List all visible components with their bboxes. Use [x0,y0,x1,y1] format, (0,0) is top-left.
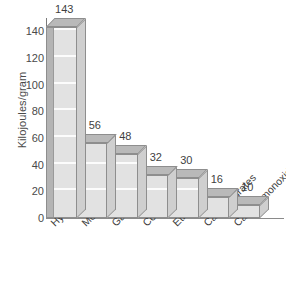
bar-left-face [47,27,54,217]
y-tick-20: 20 [32,185,44,197]
bar-side-face [138,145,147,218]
y-tick-120: 120 [26,52,44,64]
x-axis-category-labels: HydrogenMethaneGasolineCoalEthanolCarboh… [46,220,286,298]
y-tick-0: 0 [38,212,44,224]
bar-series: 143564832301610 [46,12,284,218]
y-tick-100: 100 [26,79,44,91]
y-tick-140: 140 [26,25,44,37]
plot-area: 143564832301610 [46,12,284,219]
bar-side-face [199,169,208,218]
bar-value-label: 56 [89,119,101,131]
bar-value-label: 32 [150,151,162,163]
bar-value-label: 48 [119,130,131,142]
bar-hydrogen [46,27,77,218]
bar-value-label: 143 [55,3,73,15]
bar-chart: Kilojoules/gram 140120100806040200 14356… [0,0,286,298]
y-tick-80: 80 [32,105,44,117]
bar-side-face [107,135,116,218]
bar-side-face [77,19,86,218]
y-tick-40: 40 [32,159,44,171]
bar-value-label: 30 [180,154,192,166]
bar-front-face [46,27,77,218]
y-axis-tick-labels: 140120100806040200 [0,0,50,298]
bar-value-label: 16 [211,173,223,185]
y-tick-60: 60 [32,132,44,144]
bar-value-label: 10 [241,181,253,193]
